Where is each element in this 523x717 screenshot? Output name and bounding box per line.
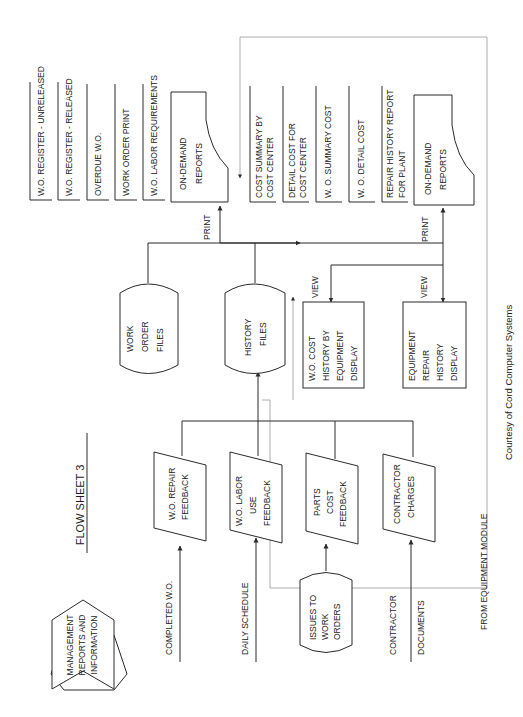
equipment-report-list: COST SUMMARY BY COST CENTER DETAIL COST …: [250, 86, 408, 202]
on-demand-label: REPORTS: [194, 143, 204, 184]
print-label-equipment: PRINT: [420, 217, 430, 243]
feedback-label: W.O. LABOR: [234, 476, 244, 526]
svg-text:REPORTS AND: REPORTS AND: [77, 615, 87, 676]
print-bus: [148, 243, 390, 283]
svg-text:INFORMATION: INFORMATION: [89, 616, 99, 675]
display-label: EQUIPMENT: [407, 330, 417, 381]
flow-sheet-diagram: FROM EQUIPMENT MODULE FLOW SHEET 3 MANAG…: [0, 0, 523, 717]
svg-text:W.O. REGISTER - UNRELEASED: W.O. REGISTER - UNRELEASED: [36, 66, 46, 196]
feedback-label: FEEDBACK: [180, 474, 190, 520]
feedback-label: CHARGES: [406, 476, 416, 518]
input-label-documents: DOCUMENTS: [416, 600, 426, 655]
feedback-label: PARTS: [312, 488, 322, 516]
feedback-label: W.O. REPAIR: [167, 468, 177, 520]
input-label-completed-wo: COMPLETED W.O.: [164, 581, 174, 655]
view-label-1: VIEW: [310, 276, 320, 298]
svg-text:MANAGEMENT: MANAGEMENT: [65, 615, 75, 676]
feedback-label: USE: [248, 496, 258, 514]
feedback-label: FEEDBACK: [262, 480, 272, 526]
svg-text:COST SUMMARY BY: COST SUMMARY BY: [254, 115, 264, 198]
svg-text:W. O. SUMMARY COST: W. O. SUMMARY COST: [323, 105, 333, 198]
history-files-cylinder: [225, 284, 285, 374]
files-label: FILES: [155, 328, 165, 352]
flow-sheet-title: FLOW SHEET 3: [74, 465, 86, 545]
svg-text:REPAIR HISTORY REPORT: REPAIR HISTORY REPORT: [385, 90, 395, 198]
svg-text:ISSUES TO: ISSUES TO: [308, 595, 318, 640]
display-label: DISPLAY: [349, 345, 359, 381]
view-label-2: VIEW: [419, 276, 429, 298]
left-report-list: W.O. REGISTER - UNRELEASED W.O. REGISTER…: [30, 66, 165, 200]
files-label: HISTORY: [243, 318, 253, 356]
credit-text: Courtesy of Cord Computer Systems: [503, 305, 514, 460]
display-label: W.O. COST: [307, 336, 317, 381]
display-label: REPAIR: [421, 350, 431, 381]
svg-text:W. O. DETAIL COST: W. O. DETAIL COST: [356, 120, 366, 198]
input-label-contractor: CONTRACTOR: [388, 595, 398, 655]
svg-text:WORK: WORK: [320, 613, 330, 640]
on-demand-label: REPORTS: [438, 149, 448, 190]
display-label: EQUIPMENT: [335, 330, 345, 381]
files-label: WORK: [125, 325, 135, 352]
on-demand-label: ON-DEMAND: [423, 143, 433, 195]
svg-text:W.O. REGISTER - RELEASED: W.O. REGISTER - RELEASED: [64, 78, 74, 196]
svg-text:FOR PLANT: FOR PLANT: [397, 150, 407, 198]
svg-text:WORK ORDER PRINT: WORK ORDER PRINT: [121, 109, 131, 196]
files-label: ORDER: [140, 321, 150, 352]
input-label-daily-schedule: DAILY SCHEDULE: [240, 582, 250, 655]
feedback-label: CONTRACTOR: [392, 464, 402, 524]
feedback-label: COST: [325, 490, 335, 514]
svg-text:DETAIL COST FOR: DETAIL COST FOR: [287, 123, 297, 198]
svg-text:W.O. LABOR REQUIREMENTS: W.O. LABOR REQUIREMENTS: [149, 75, 159, 196]
legend-label: MANAGEMENT REPORTS AND INFORMATION: [65, 615, 99, 676]
equipment-module-label: FROM EQUIPMENT MODULE: [479, 513, 489, 630]
print-label-left: PRINT: [202, 215, 212, 241]
files-label: FILES: [258, 322, 268, 346]
svg-text:COST CENTER: COST CENTER: [298, 137, 308, 198]
display-label: HISTORY: [435, 343, 445, 381]
feedback-label: FEEDBACK: [338, 481, 348, 527]
on-demand-label: ON-DEMAND: [178, 138, 188, 190]
svg-text:ORDERS: ORDERS: [332, 603, 342, 640]
display-label: HISTORY BY: [321, 330, 331, 381]
display-label: DISPLAY: [449, 345, 459, 381]
svg-text:OVERDUE W.O.: OVERDUE W.O.: [93, 133, 103, 196]
feedback-bus: [182, 421, 413, 457]
svg-text:COST CENTER: COST CENTER: [265, 137, 275, 198]
